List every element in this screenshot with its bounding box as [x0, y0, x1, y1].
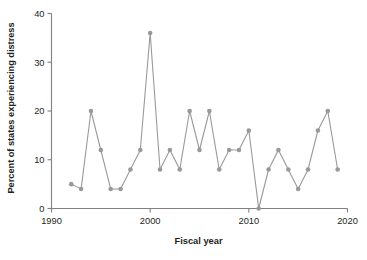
data-point-1998 — [128, 167, 133, 172]
data-point-2016 — [306, 167, 311, 172]
data-series-line — [71, 33, 337, 209]
x-tick-label-2020: 2020 — [337, 216, 358, 226]
data-point-2013 — [276, 148, 281, 153]
x-tick-label-2000: 2000 — [140, 216, 161, 226]
x-tick-label-2010: 2010 — [238, 216, 259, 226]
data-point-1994 — [89, 109, 94, 114]
data-point-2004 — [187, 109, 192, 114]
data-point-2000 — [148, 31, 153, 36]
data-point-1996 — [108, 187, 113, 192]
data-point-2005 — [197, 148, 202, 153]
data-point-2001 — [158, 167, 163, 172]
data-point-1993 — [79, 187, 84, 192]
data-point-2002 — [168, 148, 173, 153]
y-axis-tick-marks — [48, 14, 52, 209]
data-point-2012 — [266, 167, 271, 172]
data-point-2011 — [256, 206, 261, 211]
data-point-1995 — [99, 148, 104, 153]
y-tick-label-30: 30 — [34, 58, 44, 68]
data-point-2014 — [286, 167, 291, 172]
line-chart-plot: 010203040 1990200020102020 — [0, 0, 367, 260]
data-point-1999 — [138, 148, 143, 153]
data-point-2003 — [177, 167, 182, 172]
data-point-2010 — [247, 128, 252, 133]
data-point-1992 — [69, 182, 74, 187]
x-axis-tick-labels: 1990200020102020 — [41, 216, 358, 226]
y-tick-label-40: 40 — [34, 9, 44, 19]
y-tick-label-10: 10 — [34, 155, 44, 165]
data-point-2019 — [335, 167, 340, 172]
data-point-2009 — [237, 148, 242, 153]
x-tick-label-1990: 1990 — [41, 216, 62, 226]
x-axis-title: Fiscal year — [0, 236, 367, 246]
data-point-2018 — [325, 109, 330, 114]
data-point-2008 — [227, 148, 232, 153]
data-point-1997 — [118, 187, 123, 192]
data-point-2006 — [207, 109, 212, 114]
data-point-2015 — [296, 187, 301, 192]
x-axis-tick-marks — [52, 209, 348, 213]
y-tick-label-0: 0 — [39, 204, 44, 214]
data-point-2017 — [316, 128, 321, 133]
chart-container: Percent of states experiencing distress … — [0, 0, 367, 260]
data-point-2007 — [217, 167, 222, 172]
y-axis-tick-labels: 010203040 — [34, 9, 44, 214]
y-tick-label-20: 20 — [34, 106, 44, 116]
